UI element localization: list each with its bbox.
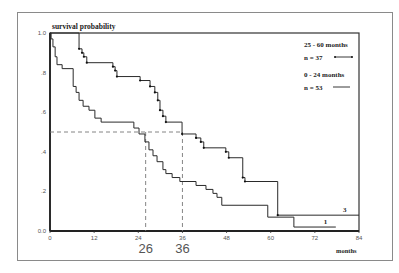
x-tick-label: 48: [223, 235, 230, 241]
censor-marker: [162, 115, 164, 117]
censor-marker: [195, 137, 197, 139]
median-guides: 2636: [50, 132, 190, 256]
censor-marker: [181, 133, 183, 135]
legend-series-2-name: 0 - 24 months: [304, 71, 345, 79]
censor-marker: [114, 70, 116, 72]
y-axis-label: survival probability: [52, 22, 116, 31]
legend-marker-left: [334, 56, 336, 58]
censor-marker: [139, 79, 141, 81]
curve-end-label-2: 1: [324, 218, 328, 226]
censor-marker: [200, 141, 202, 143]
x-tick-label: 84: [356, 235, 363, 241]
censor-marker: [165, 121, 167, 123]
censor-marker: [228, 157, 230, 159]
censor-marker: [154, 91, 156, 93]
x-tick-label: 12: [91, 235, 98, 241]
legend-series-1-n: n = 37: [304, 54, 323, 62]
x-tick-label: 72: [312, 235, 319, 241]
curve-end-label-1: 3: [343, 206, 347, 214]
x-axis-label: months: [336, 247, 357, 254]
y-tick-label: 1.0: [38, 30, 47, 36]
censor-marker: [159, 109, 161, 111]
y-tick-label: .8: [41, 70, 47, 76]
survival-curves: 31: [50, 33, 359, 227]
survival-chart: survival probability months 012243648607…: [0, 0, 399, 273]
censor-marker: [203, 147, 205, 149]
censor-marker: [116, 75, 118, 77]
censor-marker: [81, 52, 83, 54]
y-tick-label: .2: [41, 188, 47, 194]
censor-marker: [78, 48, 80, 50]
survival-curve-2: [50, 33, 336, 227]
median-value-label: 26: [138, 241, 152, 256]
legend-series-2-n: n = 53: [304, 84, 323, 92]
censor-marker: [112, 66, 114, 68]
median-value-label: 36: [175, 241, 189, 256]
censor-marker: [157, 99, 159, 101]
x-tick-label: 0: [48, 235, 52, 241]
censor-marker: [242, 176, 244, 178]
y-tick-label: .6: [41, 109, 47, 115]
censor-marker: [149, 85, 151, 87]
y-tick-label: .4: [41, 149, 47, 155]
censor-marker: [225, 151, 227, 153]
x-tick-label: 60: [267, 235, 274, 241]
legend-marker-right: [351, 56, 353, 58]
censor-marker: [83, 56, 85, 58]
legend: 25 - 60 months n = 37 0 - 24 months n = …: [304, 41, 353, 92]
censor-marker: [86, 62, 88, 64]
censor-marker: [277, 214, 279, 216]
censor-marker: [244, 180, 246, 182]
legend-series-1-name: 25 - 60 months: [304, 41, 348, 49]
y-tick-label: 0.0: [38, 228, 47, 234]
